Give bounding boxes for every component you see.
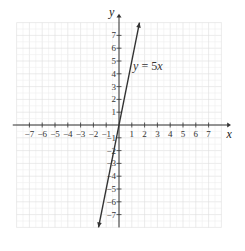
y-tick-label: −6 bbox=[106, 197, 116, 207]
y-tick-label: 1 bbox=[112, 107, 117, 117]
x-tick-label: −4 bbox=[63, 129, 73, 139]
y-tick-label: 4 bbox=[112, 69, 117, 79]
equation-label: y = 5x bbox=[132, 59, 163, 73]
x-axis-label: x bbox=[226, 127, 233, 141]
y-axis-label: y bbox=[108, 5, 115, 19]
y-axis-arrow-icon bbox=[117, 14, 122, 18]
y-tick-label: 6 bbox=[112, 43, 117, 53]
y-tick-label: −7 bbox=[106, 210, 116, 220]
x-tick-label: −6 bbox=[37, 129, 47, 139]
y-tick-label: −1 bbox=[106, 133, 116, 143]
coordinate-plane: −7−6−5−4−3−2−11234567−7−6−5−4−3−2−112345… bbox=[0, 0, 245, 251]
x-tick-label: 5 bbox=[181, 129, 186, 139]
x-tick-label: 1 bbox=[130, 129, 135, 139]
y-tick-label: 7 bbox=[112, 30, 117, 40]
x-tick-label: −5 bbox=[50, 129, 60, 139]
x-tick-label: 4 bbox=[168, 129, 173, 139]
y-tick-label: −5 bbox=[106, 184, 116, 194]
x-tick-label: 7 bbox=[206, 129, 211, 139]
x-tick-label: −7 bbox=[25, 129, 35, 139]
x-tick-label: −3 bbox=[76, 129, 86, 139]
y-tick-label: 5 bbox=[112, 56, 117, 66]
x-tick-label: −2 bbox=[89, 129, 99, 139]
y-tick-label: 2 bbox=[112, 94, 117, 104]
x-tick-label: 6 bbox=[194, 129, 199, 139]
x-tick-label: 2 bbox=[142, 129, 147, 139]
x-tick-label: 3 bbox=[155, 129, 160, 139]
y-tick-label: 3 bbox=[112, 82, 117, 92]
